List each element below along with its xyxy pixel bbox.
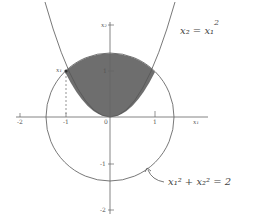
x-tick-label: -2	[17, 118, 23, 125]
intersection-point	[64, 69, 67, 72]
y-tick-label: 1	[103, 67, 107, 74]
point-label: x₁	[56, 66, 62, 73]
circle-equation-label: x₁² + x₂² = 2	[168, 176, 231, 187]
y-axis-label: x₂	[101, 21, 107, 28]
x-tick-label: 0	[104, 118, 108, 125]
parabola-equation-label: x₂ = x₁	[180, 25, 214, 36]
y-tick-label: -1	[100, 160, 106, 167]
parabola-equation-superscript: 2	[213, 18, 219, 27]
circle-pointer-arrow	[148, 170, 164, 182]
x-axis-label: x₁	[193, 118, 199, 125]
x-tick-label: -1	[63, 118, 69, 125]
y-tick-label: -2	[100, 206, 106, 213]
x-tick-label: 1	[153, 118, 157, 125]
region-diagram: -2 -1 0 1 x₁ 1 -1 -2 x₂ x₁ x₂ = x₁ 2 x₁²…	[0, 0, 253, 223]
